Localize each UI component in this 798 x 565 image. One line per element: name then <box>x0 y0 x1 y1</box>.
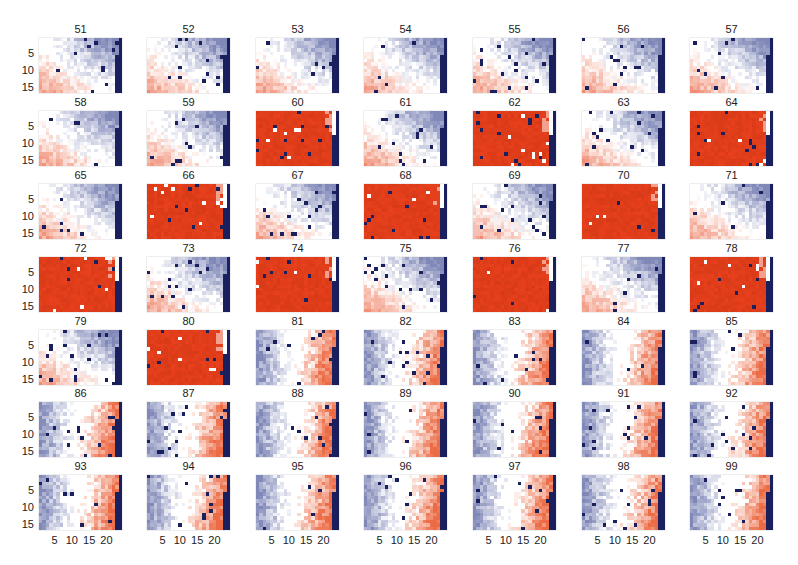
heatmap-cells <box>256 257 339 312</box>
y-tick-label: 10 <box>22 138 34 149</box>
heatmap-cells <box>256 184 339 239</box>
panel-title: 81 <box>256 315 339 327</box>
heatmap-cells <box>256 402 339 457</box>
heatmap-panel-80: 80 <box>147 330 230 385</box>
heatmap-cells <box>147 184 230 239</box>
panel-title: 58 <box>39 96 122 108</box>
heatmap-panel-59: 59 <box>147 111 230 166</box>
heatmap-panel-55: 55 <box>473 38 556 93</box>
heatmap-panel-70: 70 <box>582 184 665 239</box>
x-tick-label: 5 <box>486 535 492 546</box>
x-tick-label: 15 <box>300 535 312 546</box>
heatmap-cells <box>256 38 339 93</box>
panel-title: 65 <box>39 169 122 181</box>
heatmap-cells <box>147 38 230 93</box>
x-tick-label: 20 <box>425 535 437 546</box>
panel-title: 89 <box>364 387 447 399</box>
heatmap-panel-95: 955101520 <box>256 475 339 530</box>
heatmap-panel-84: 84 <box>582 330 665 385</box>
heatmap-cells <box>256 475 339 530</box>
heatmap-cells <box>690 257 773 312</box>
y-tick-label: 15 <box>22 374 34 385</box>
panel-title: 55 <box>473 23 556 35</box>
panel-title: 85 <box>690 315 773 327</box>
panel-title: 97 <box>473 460 556 472</box>
panel-title: 64 <box>690 96 773 108</box>
x-tick-label: 10 <box>66 535 78 546</box>
panel-title: 95 <box>256 460 339 472</box>
panel-title: 66 <box>147 169 230 181</box>
y-tick-label: 5 <box>28 121 34 132</box>
heatmap-panel-90: 90 <box>473 402 556 457</box>
heatmap-panel-63: 63 <box>582 111 665 166</box>
heatmap-cells <box>582 38 665 93</box>
heatmap-panel-77: 77 <box>582 257 665 312</box>
panel-title: 72 <box>39 242 122 254</box>
heatmap-cells <box>147 111 230 166</box>
panel-title: 59 <box>147 96 230 108</box>
panel-title: 61 <box>364 96 447 108</box>
heatmap-cells <box>364 38 447 93</box>
heatmap-cells <box>364 475 447 530</box>
panel-title: 69 <box>473 169 556 181</box>
panel-title: 56 <box>582 23 665 35</box>
y-tick-label: 10 <box>22 211 34 222</box>
y-tick-label: 10 <box>22 429 34 440</box>
heatmap-panel-83: 83 <box>473 330 556 385</box>
heatmap-panel-86: 8651015 <box>39 402 122 457</box>
x-tick-label: 15 <box>83 535 95 546</box>
x-tick-label: 10 <box>391 535 403 546</box>
panel-title: 87 <box>147 387 230 399</box>
panel-title: 93 <box>39 460 122 472</box>
heatmap-cells <box>690 475 773 530</box>
y-tick-label: 5 <box>28 267 34 278</box>
heatmap-cells <box>473 184 556 239</box>
heatmap-panel-66: 66 <box>147 184 230 239</box>
panel-title: 60 <box>256 96 339 108</box>
x-tick-label: 10 <box>500 535 512 546</box>
x-tick-label: 20 <box>643 535 655 546</box>
heatmap-cells <box>147 257 230 312</box>
x-tick-label: 15 <box>517 535 529 546</box>
panel-title: 52 <box>147 23 230 35</box>
heatmap-cells <box>364 330 447 385</box>
x-tick-label: 15 <box>734 535 746 546</box>
panel-title: 67 <box>256 169 339 181</box>
y-tick-label: 15 <box>22 446 34 457</box>
panel-title: 73 <box>147 242 230 254</box>
x-tick-label: 20 <box>534 535 546 546</box>
heatmap-cells <box>39 257 122 312</box>
heatmap-cells <box>39 402 122 457</box>
heatmap-panel-51: 5151015 <box>39 38 122 93</box>
heatmap-cells <box>473 330 556 385</box>
y-tick-label: 5 <box>28 485 34 496</box>
panel-title: 84 <box>582 315 665 327</box>
heatmap-panel-92: 92 <box>690 402 773 457</box>
heatmap-cells <box>690 402 773 457</box>
x-tick-label: 20 <box>100 535 112 546</box>
heatmap-panel-58: 5851015 <box>39 111 122 166</box>
panel-title: 75 <box>364 242 447 254</box>
x-tick-label: 5 <box>160 535 166 546</box>
heatmap-cells <box>582 184 665 239</box>
heatmap-panel-93: 93510155101520 <box>39 475 122 530</box>
heatmap-cells <box>690 184 773 239</box>
y-tick-label: 15 <box>22 301 34 312</box>
heatmap-panel-98: 985101520 <box>582 475 665 530</box>
x-tick-label: 10 <box>717 535 729 546</box>
y-tick-label: 5 <box>28 48 34 59</box>
panel-title: 57 <box>690 23 773 35</box>
heatmap-panel-61: 61 <box>364 111 447 166</box>
heatmap-cells <box>39 475 122 530</box>
heatmap-panel-71: 71 <box>690 184 773 239</box>
heatmap-cells <box>364 184 447 239</box>
heatmap-panel-81: 81 <box>256 330 339 385</box>
heatmap-cells <box>582 257 665 312</box>
y-tick-label: 5 <box>28 412 34 423</box>
panel-title: 51 <box>39 23 122 35</box>
y-tick-label: 10 <box>22 65 34 76</box>
heatmap-panel-85: 85 <box>690 330 773 385</box>
y-tick-label: 15 <box>22 519 34 530</box>
x-tick-label: 20 <box>317 535 329 546</box>
panel-title: 77 <box>582 242 665 254</box>
